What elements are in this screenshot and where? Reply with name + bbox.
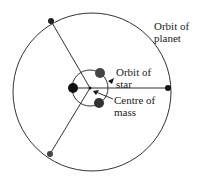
planet-line-1: [51, 21, 90, 88]
planet-3: [47, 151, 53, 157]
star-2: [95, 68, 105, 78]
diagram: Orbit ofplanet Orbit ofstar Centre ofmas…: [0, 0, 197, 176]
star-3: [94, 98, 104, 108]
planet-line-3: [50, 88, 90, 154]
star-1: [68, 83, 78, 93]
planet-2: [165, 85, 171, 91]
centre-of-mass: [89, 87, 92, 90]
planet-orbit: [13, 13, 171, 171]
orbit-star-label: Orbit ofstar: [116, 66, 151, 90]
star-orbit-arrow: [108, 78, 114, 84]
centre-mass-label: Centre ofmass: [114, 94, 155, 118]
orbit-planet-label: Orbit ofplanet: [154, 20, 189, 44]
planet-1: [48, 18, 54, 24]
